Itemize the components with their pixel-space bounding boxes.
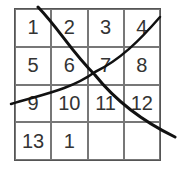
curved-stroke <box>11 17 160 104</box>
diagonal-stroke <box>38 7 175 137</box>
strokes-overlay <box>0 0 177 172</box>
